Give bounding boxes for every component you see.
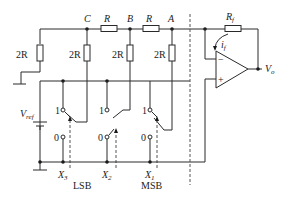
msb-label: MSB xyxy=(141,180,162,191)
resistor-2r-b xyxy=(127,45,133,61)
wire-c-to-switch-x3 xyxy=(67,61,87,122)
node-b-label: B xyxy=(127,13,133,24)
switch-x2-contact-0 xyxy=(105,135,109,139)
resistor-2r-c xyxy=(84,45,90,61)
switch-x1-contact-0 xyxy=(148,135,152,139)
resistor-2r-b-label: 2R xyxy=(112,49,124,60)
vo-label: Vo xyxy=(265,63,275,76)
switch-x3-arm[interactable] xyxy=(65,112,70,117)
resistor-2r-left xyxy=(37,45,43,61)
switch-x3-0-label: 0 xyxy=(54,132,59,143)
switch-x3-1-label: 1 xyxy=(55,105,60,116)
switch-x2-contact-1 xyxy=(105,108,109,112)
resistor-rf xyxy=(225,26,241,32)
opamp-minus: − xyxy=(218,54,224,65)
wire-to-inverting-input xyxy=(205,29,216,59)
ladder-top-wire xyxy=(40,29,238,44)
switch-x2-arm[interactable] xyxy=(109,129,114,135)
switch-x3-contact-1 xyxy=(61,108,65,112)
switch-x2-1-label: 1 xyxy=(99,105,104,116)
resistor-r-ba-label: R xyxy=(145,13,152,24)
switch-x2-0-label: 0 xyxy=(98,132,103,143)
resistor-r-cb-label: R xyxy=(103,13,110,24)
resistor-2r-left-label: 2R xyxy=(16,49,28,60)
bit-x2-label: X2 xyxy=(101,169,112,182)
resistor-2r-a-label: 2R xyxy=(154,49,166,60)
bit-x3-label: X3 xyxy=(57,169,68,182)
switch-x1-arm[interactable] xyxy=(152,112,157,117)
node-a-label: A xyxy=(167,13,175,24)
resistor-r-cb xyxy=(101,26,117,32)
lsb-label: LSB xyxy=(73,180,92,191)
switch-x3-contact-0 xyxy=(61,135,65,139)
resistor-r-ba xyxy=(143,26,159,32)
switch-x1-0-label: 0 xyxy=(141,132,146,143)
wire-b-to-switch-x2 xyxy=(113,61,130,118)
switch-x1-contact-1 xyxy=(148,108,152,112)
resistor-2r-a xyxy=(169,45,175,61)
vref-label: Vref xyxy=(20,108,35,121)
resistor-2r-c-label: 2R xyxy=(69,49,81,60)
rf-label: Rf xyxy=(225,11,235,24)
node-c-label: C xyxy=(84,13,91,24)
opamp-plus: + xyxy=(218,74,224,85)
r-2r-dac-circuit: R R C B A 2R 2R 2R 2R Vref 1 1 1 0 0 xyxy=(0,0,284,198)
current-label: if xyxy=(221,39,227,52)
switch-x1-1-label: 1 xyxy=(142,105,147,116)
